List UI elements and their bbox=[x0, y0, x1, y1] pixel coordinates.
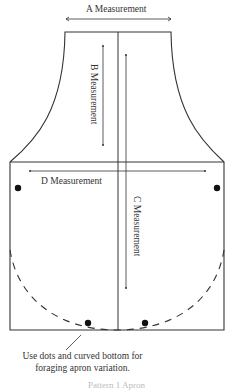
b-measurement-arrow bbox=[102, 45, 104, 146]
a-measurement-label: A Measurement bbox=[86, 5, 146, 15]
caption-line-1: Use dots and curved bottom for bbox=[20, 350, 145, 362]
dot-right-bottom bbox=[142, 320, 148, 326]
dot-left-top bbox=[15, 185, 21, 191]
caption-pointer bbox=[66, 335, 81, 350]
c-measurement-arrow bbox=[125, 54, 127, 289]
footer-partial-text: Pattern 1 Apron bbox=[88, 380, 145, 390]
b-measurement-label: B Measurement bbox=[89, 64, 99, 124]
c-measurement-label: C Measurement bbox=[132, 196, 142, 256]
curved-bottom-dashed bbox=[10, 250, 224, 330]
dot-right-top bbox=[214, 185, 220, 191]
d-measurement-label: D Measurement bbox=[41, 177, 102, 187]
caption-line-2: foraging apron variation. bbox=[20, 362, 145, 374]
caption: Use dots and curved bottom for foraging … bbox=[20, 350, 145, 374]
dot-left-bottom bbox=[85, 320, 91, 326]
a-measurement-arrow bbox=[66, 17, 171, 21]
